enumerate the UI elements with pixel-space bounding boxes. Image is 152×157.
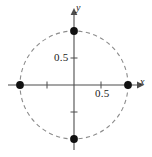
- y-axis-tick-label-half: 0.5: [54, 52, 68, 63]
- point-marker-top: [70, 27, 78, 35]
- point-marker-bottom: [70, 135, 78, 143]
- x-axis-label: x: [140, 77, 144, 87]
- point-marker-right: [124, 81, 132, 89]
- plot-canvas: [0, 0, 152, 157]
- unit-circle-plot: 0.5 0.5 x y: [0, 0, 152, 157]
- point-marker-left: [16, 81, 24, 89]
- x-axis-tick-label-half: 0.5: [95, 88, 109, 99]
- y-axis-label: y: [76, 3, 80, 13]
